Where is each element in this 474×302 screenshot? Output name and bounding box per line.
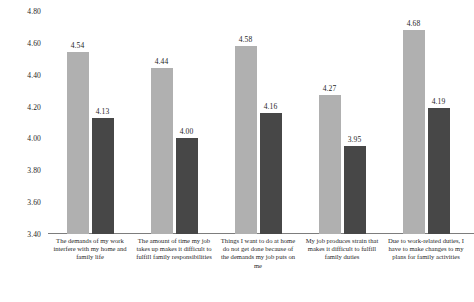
category-label-3: Things I want to do at home do not get d…	[216, 237, 300, 270]
bar-value-label: 4.27	[323, 84, 337, 93]
y-axis-tick-4: 4.00	[27, 134, 48, 143]
bar-series-2: 4.16	[260, 113, 282, 234]
bar-value-label: 3.95	[348, 135, 362, 144]
bar-value-label: 4.68	[407, 19, 421, 28]
bar-group: 4.544.13	[48, 11, 132, 234]
y-axis-tick-1: 4.60	[27, 38, 48, 47]
bar-group: 4.273.95	[300, 11, 384, 234]
y-axis-tick-7: 3.40	[27, 230, 48, 239]
bar-series-1: 4.68	[403, 30, 425, 234]
bar-value-label: 4.00	[180, 127, 194, 136]
y-axis-tick-2: 4.40	[27, 70, 48, 79]
bar-series-1: 4.58	[235, 46, 257, 234]
bar-group: 4.584.16	[216, 11, 300, 234]
cut-off-footer-text	[46, 293, 444, 301]
bar-groups: 4.544.134.444.004.584.164.273.954.684.19	[48, 11, 468, 234]
y-axis-tick-5: 3.80	[27, 166, 48, 175]
bar-series-1: 4.27	[319, 95, 341, 234]
y-axis-tick-0: 4.80	[27, 7, 48, 16]
y-axis-tick-6: 3.60	[27, 198, 48, 207]
bar-value-label: 4.58	[239, 35, 253, 44]
category-label-1: The demands of my work interfere with my…	[48, 237, 132, 270]
plot-area: 4.804.604.404.204.003.803.603.40 4.544.1…	[48, 11, 468, 234]
bar-series-2: 4.19	[428, 108, 450, 234]
bar-value-label: 4.44	[155, 57, 169, 66]
category-label-2: The amount of time my job takes up makes…	[132, 237, 216, 270]
bar-series-2: 3.95	[344, 146, 366, 234]
category-axis-labels: The demands of my work interfere with my…	[48, 237, 468, 270]
bar-value-label: 4.19	[432, 97, 446, 106]
bar-group: 4.444.00	[132, 11, 216, 234]
bar-value-label: 4.13	[96, 107, 110, 116]
bar-series-2: 4.13	[92, 118, 114, 234]
bar-value-label: 4.16	[264, 102, 278, 111]
bar-series-2: 4.00	[176, 138, 198, 234]
bar-value-label: 4.54	[71, 41, 85, 50]
bar-group: 4.684.19	[384, 11, 468, 234]
y-axis-tick-3: 4.20	[27, 102, 48, 111]
bar-series-1: 4.44	[151, 68, 173, 234]
bar-chart: 4.804.604.404.204.003.803.603.40 4.544.1…	[0, 0, 474, 302]
category-label-4: My job produces strain that makes it dif…	[300, 237, 384, 270]
category-label-5: Due to work-related duties, I have to ma…	[384, 237, 468, 270]
bar-series-1: 4.54	[67, 52, 89, 234]
